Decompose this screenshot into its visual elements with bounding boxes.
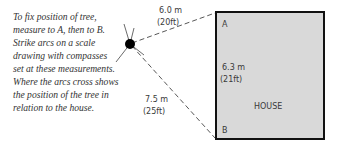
- tree-dot-icon: [125, 39, 135, 49]
- measure-b-metric: 7.5 m: [145, 95, 168, 104]
- tree-position-diagram: 6.0 m (20ft) 7.5 m (25ft) A B 6.3 m (21f…: [0, 0, 340, 156]
- measure-a-metric: 6.0 m: [159, 6, 182, 15]
- house-side-metric: 6.3 m: [222, 63, 245, 72]
- house-label: HOUSE: [254, 102, 282, 111]
- measure-a-imperial: (20ft): [157, 18, 179, 27]
- corner-a-label: A: [222, 20, 228, 29]
- measure-line-to-b: [132, 46, 215, 138]
- corner-b-label: B: [222, 126, 228, 135]
- house-side-imperial: (21ft): [220, 75, 242, 84]
- measure-b-imperial: (25ft): [143, 107, 165, 116]
